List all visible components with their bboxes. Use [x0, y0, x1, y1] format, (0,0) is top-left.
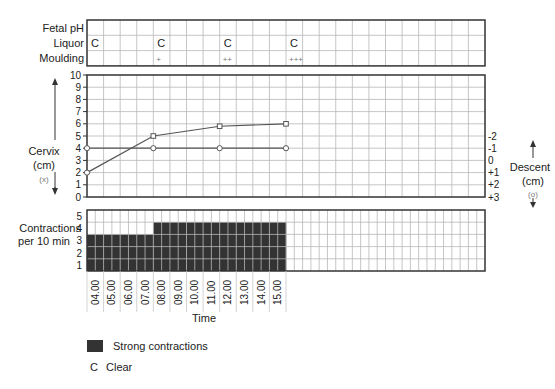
y-tick-label: 3 — [76, 235, 82, 246]
descent-tick-label: +3 — [488, 192, 500, 203]
y-tick-label: 2 — [76, 248, 82, 259]
cervix-point — [84, 170, 89, 175]
time-label: 12.00 — [222, 280, 233, 305]
cervix-label: Cervix — [28, 145, 60, 157]
liquor-entry: C — [91, 37, 99, 49]
contractions-label: Contractions — [19, 222, 81, 234]
contractions-chart: 12345Contractionsper 10 min — [18, 210, 485, 271]
time-label: 14.00 — [256, 280, 267, 305]
moulding-label: Moulding — [39, 52, 84, 64]
fetal-ph-label: Fetal pH — [42, 22, 84, 34]
cervix-unit-label: (cm) — [33, 159, 55, 171]
descent-point — [283, 146, 288, 151]
time-label: 07.00 — [140, 280, 151, 305]
time-label: 15.00 — [272, 280, 283, 305]
liquor-entry: C — [224, 37, 232, 49]
cervix-point — [284, 122, 289, 127]
time-label: 05.00 — [106, 280, 117, 305]
partograph-chart: Fetal pHLiquorMouldingCCCC++++++01234567… — [0, 0, 555, 389]
moulding-entry: + — [156, 55, 161, 64]
y-tick-label: 7 — [75, 106, 81, 117]
time-axis-label: Time — [192, 312, 216, 324]
y-tick-label: 5 — [75, 131, 81, 142]
clear-symbol: C — [90, 361, 98, 373]
strong-contractions-label: Strong contractions — [113, 340, 208, 352]
liquor-label: Liquor — [53, 37, 84, 49]
y-tick-label: 4 — [75, 143, 81, 154]
liquor-entry: C — [290, 37, 298, 49]
legend: Strong contractionsCClear — [87, 340, 208, 373]
arrow-head-icon — [530, 202, 536, 208]
y-tick-label: 1 — [75, 179, 81, 190]
cervix-marker-label: (x) — [39, 175, 49, 184]
descent-unit-label: (cm) — [522, 175, 544, 187]
y-tick-label: 8 — [75, 94, 81, 105]
observation-table: Fetal pHLiquorMouldingCCCC++++++ — [39, 20, 485, 66]
y-tick-label: 5 — [76, 211, 82, 222]
time-label: 08.00 — [156, 280, 167, 305]
y-tick-label: 1 — [76, 260, 82, 271]
cervix-point — [151, 134, 156, 139]
time-label: 06.00 — [123, 280, 134, 305]
descent-point — [151, 146, 156, 151]
descent-point — [217, 146, 222, 151]
descent-label: Descent — [510, 161, 550, 173]
contractions-label-2: per 10 min — [18, 235, 70, 247]
arrow-head-icon — [530, 140, 536, 147]
time-label: 04.00 — [90, 280, 101, 305]
descent-tick-label: -2 — [488, 131, 497, 142]
time-label: 10.00 — [189, 280, 200, 305]
arrow-head-icon — [52, 78, 58, 85]
descent-tick-label: -1 — [488, 143, 497, 154]
y-tick-label: 0 — [75, 192, 81, 203]
descent-tick-label: +2 — [488, 179, 500, 190]
cervix-descent-chart: 012345678910-2-10+1+2+3Cervix(cm)(x)Desc… — [28, 70, 550, 209]
time-label: 09.00 — [173, 280, 184, 305]
moulding-entry: ++ — [223, 55, 233, 64]
y-tick-label: 6 — [75, 118, 81, 129]
y-tick-label: 2 — [75, 167, 81, 178]
y-tick-label: 10 — [70, 70, 82, 81]
cervix-point — [217, 124, 222, 129]
descent-marker-label: (o) — [528, 190, 538, 199]
y-tick-label: 9 — [75, 82, 81, 93]
time-label: 11.00 — [206, 280, 217, 305]
descent-tick-label: +1 — [488, 167, 500, 178]
descent-tick-label: 0 — [488, 155, 494, 166]
time-label: 13.00 — [239, 280, 250, 305]
clear-label: Clear — [106, 361, 133, 373]
strong-contractions-swatch — [87, 340, 103, 352]
descent-point — [84, 146, 89, 151]
liquor-entry: C — [157, 37, 165, 49]
moulding-entry: +++ — [289, 55, 303, 64]
y-tick-label: 3 — [75, 155, 81, 166]
time-axis: 04.0005.0006.0007.0008.0009.0010.0011.00… — [87, 271, 286, 324]
arrow-head-icon — [52, 188, 58, 195]
